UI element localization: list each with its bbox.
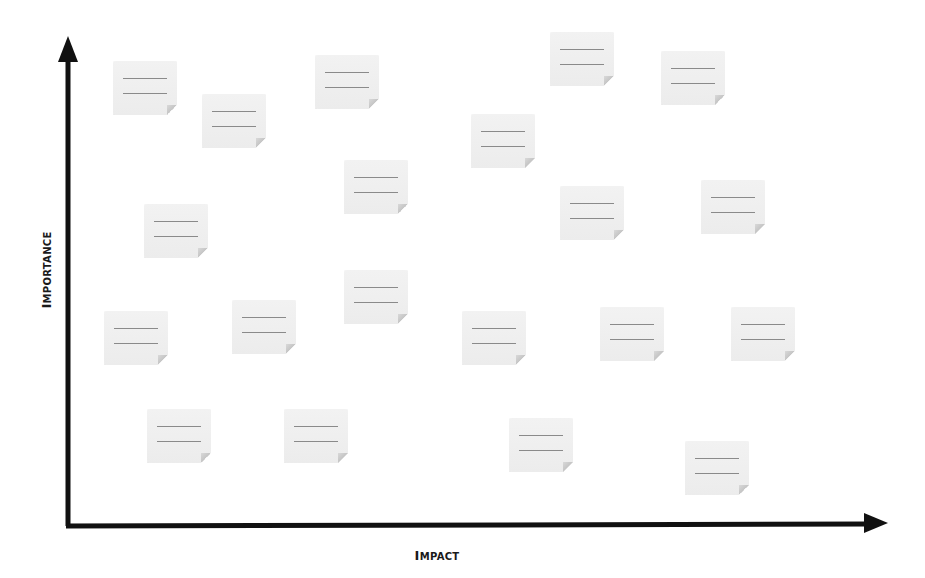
note-placeholder-line [123, 78, 167, 79]
sticky-note[interactable] [232, 300, 296, 354]
sticky-note[interactable] [104, 311, 168, 365]
note-placeholder-line [570, 218, 614, 219]
sticky-note[interactable] [147, 409, 211, 463]
sticky-note[interactable] [144, 204, 208, 258]
note-placeholder-line [695, 473, 739, 474]
sticky-note[interactable] [550, 32, 614, 86]
note-placeholder-line [157, 426, 201, 427]
sticky-note[interactable] [685, 441, 749, 495]
note-placeholder-line [481, 146, 525, 147]
note-placeholder-line [671, 68, 715, 69]
note-placeholder-line [354, 287, 398, 288]
note-placeholder-line [711, 197, 755, 198]
sticky-note[interactable] [284, 409, 348, 463]
note-placeholder-line [354, 192, 398, 193]
note-placeholder-line [294, 441, 338, 442]
note-placeholder-line [242, 317, 286, 318]
note-placeholder-line [154, 221, 198, 222]
note-placeholder-line [354, 177, 398, 178]
note-placeholder-line [157, 441, 201, 442]
sticky-note[interactable] [113, 61, 177, 115]
note-placeholder-line [114, 343, 158, 344]
sticky-note[interactable] [701, 180, 765, 234]
note-placeholder-line [472, 328, 516, 329]
note-placeholder-line [741, 339, 785, 340]
note-placeholder-line [711, 212, 755, 213]
note-placeholder-line [472, 343, 516, 344]
note-placeholder-line [695, 458, 739, 459]
note-placeholder-line [212, 111, 256, 112]
note-placeholder-line [325, 87, 369, 88]
sticky-note[interactable] [600, 307, 664, 361]
prioritization-matrix: IMPORTANCE IMPACT [0, 0, 925, 578]
note-placeholder-line [560, 64, 604, 65]
sticky-note[interactable] [509, 418, 573, 472]
note-placeholder-line [671, 83, 715, 84]
note-placeholder-line [519, 435, 563, 436]
sticky-note[interactable] [344, 270, 408, 324]
note-placeholder-line [154, 236, 198, 237]
x-axis-label: IMPACT [415, 548, 460, 563]
note-placeholder-line [114, 328, 158, 329]
note-placeholder-line [519, 450, 563, 451]
note-placeholder-line [123, 93, 167, 94]
sticky-note[interactable] [731, 307, 795, 361]
y-axis-label: IMPORTANCE [39, 231, 54, 308]
sticky-note[interactable] [202, 94, 266, 148]
sticky-note[interactable] [661, 51, 725, 105]
note-placeholder-line [560, 49, 604, 50]
note-placeholder-line [294, 426, 338, 427]
note-placeholder-line [610, 324, 654, 325]
note-placeholder-line [325, 72, 369, 73]
sticky-note[interactable] [462, 311, 526, 365]
sticky-note[interactable] [560, 186, 624, 240]
note-placeholder-line [354, 302, 398, 303]
note-placeholder-line [741, 324, 785, 325]
sticky-note[interactable] [344, 160, 408, 214]
x-axis-line [66, 524, 868, 526]
note-placeholder-line [570, 203, 614, 204]
note-placeholder-line [212, 126, 256, 127]
y-axis-arrowhead-icon [58, 36, 78, 62]
note-placeholder-line [610, 339, 654, 340]
sticky-note[interactable] [471, 114, 535, 168]
note-placeholder-line [481, 131, 525, 132]
sticky-note[interactable] [315, 55, 379, 109]
x-axis-arrowhead-icon [864, 513, 888, 533]
note-placeholder-line [242, 332, 286, 333]
